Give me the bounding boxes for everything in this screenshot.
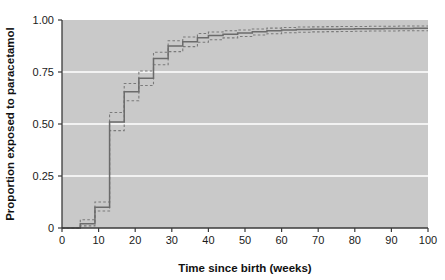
x-axis-title: Time since birth (weeks) (178, 262, 312, 274)
y-tick-label: 1.00 (33, 14, 54, 26)
x-tick-label: 10 (92, 234, 104, 246)
cumulative-incidence-chart: 0102030405060708090100 00.250.500.751.00… (0, 0, 445, 280)
y-tick-label: 0.50 (33, 118, 54, 130)
x-tick-label: 40 (202, 234, 214, 246)
chart-figure: 0102030405060708090100 00.250.500.751.00… (0, 0, 445, 280)
y-axis-title: Proportion exposed to paracetamol (4, 27, 16, 221)
y-tick-label: 0.75 (33, 66, 54, 78)
y-tick-label: 0.25 (33, 170, 54, 182)
x-tick-label: 0 (59, 234, 65, 246)
x-tick-label: 60 (275, 234, 287, 246)
x-tick-label: 70 (312, 234, 324, 246)
x-tick-label: 20 (129, 234, 141, 246)
x-tick-label: 80 (349, 234, 361, 246)
x-tick-label: 100 (419, 234, 437, 246)
x-tick-label: 90 (385, 234, 397, 246)
y-tick-label: 0 (48, 222, 54, 234)
x-tick-label: 50 (239, 234, 251, 246)
x-tick-label: 30 (166, 234, 178, 246)
